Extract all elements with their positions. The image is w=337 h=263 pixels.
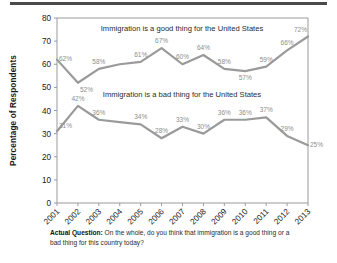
- data-point-label: 28%: [155, 127, 168, 134]
- y-tick-label: 10: [42, 176, 52, 185]
- data-point-label: 37%: [260, 106, 273, 113]
- x-tick-label: 2009: [210, 207, 230, 227]
- data-point-label: 42%: [71, 95, 84, 102]
- y-tick-label: 60: [42, 60, 52, 69]
- series-annotation: Immigration is a good thing for the Unit…: [101, 24, 264, 33]
- data-point-label: 66%: [281, 39, 294, 46]
- data-point-label: 58%: [92, 58, 105, 65]
- x-tick-label: 2002: [63, 207, 83, 227]
- x-tick-label: 2008: [189, 207, 209, 227]
- data-point-label: 31%: [59, 122, 72, 129]
- chart-page: 01020304050607080Percentage of Responden…: [0, 0, 337, 263]
- y-tick-label: 70: [42, 37, 52, 46]
- caption-lead: Actual Question:: [50, 229, 103, 236]
- line-chart: 01020304050607080Percentage of Responden…: [0, 0, 337, 263]
- y-tick-label: 80: [42, 14, 52, 23]
- data-point-label: 72%: [294, 26, 307, 33]
- x-tick-label: 2001: [42, 207, 62, 227]
- data-point-label: 33%: [176, 116, 189, 123]
- y-tick-label: 30: [42, 130, 52, 139]
- data-point-label: 64%: [197, 44, 210, 51]
- chart-render-group: 01020304050607080Percentage of Responden…: [9, 14, 323, 226]
- x-tick-label: 2004: [105, 207, 125, 227]
- data-point-label: 58%: [218, 58, 231, 65]
- x-tick-label: 2003: [84, 207, 104, 227]
- data-point-label: 36%: [239, 109, 252, 116]
- data-point-label: 62%: [59, 55, 72, 62]
- chart-svg: 01020304050607080Percentage of Responden…: [0, 0, 337, 263]
- data-point-label: 67%: [155, 37, 168, 44]
- y-tick-label: 50: [42, 83, 52, 92]
- data-point-label: 60%: [176, 53, 189, 60]
- data-point-label: 52%: [80, 86, 93, 93]
- x-tick-label: 2012: [272, 207, 292, 227]
- data-point-label: 25%: [310, 141, 323, 148]
- x-tick-label: 2007: [168, 207, 188, 227]
- data-point-label: 59%: [260, 56, 273, 63]
- y-tick-label: 0: [46, 199, 51, 208]
- series-annotation: Immigration is a bad thing for the Unite…: [103, 90, 261, 99]
- data-point-label: 57%: [239, 74, 252, 81]
- data-point-label: 36%: [218, 109, 231, 116]
- y-tick-label: 40: [42, 107, 52, 116]
- data-point-label: 30%: [197, 123, 210, 130]
- data-point-label: 36%: [92, 109, 105, 116]
- chart-caption: Actual Question: On the whole, do you th…: [50, 228, 300, 247]
- y-axis-title: Percentage of Respondents: [9, 55, 18, 166]
- data-point-label: 34%: [134, 113, 147, 120]
- x-tick-label: 2011: [252, 207, 271, 226]
- x-tick-label: 2006: [147, 207, 167, 227]
- y-tick-label: 20: [42, 153, 52, 162]
- x-tick-label: 2013: [293, 207, 313, 227]
- x-tick-label: 2010: [230, 207, 250, 227]
- data-point-label: 29%: [281, 125, 294, 132]
- x-tick-label: 2005: [126, 207, 146, 227]
- data-point-label: 61%: [134, 51, 147, 58]
